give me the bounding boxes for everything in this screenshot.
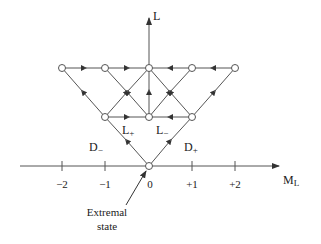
node: [102, 65, 109, 72]
lattice-diagram: [0, 0, 321, 244]
d-minus-label: D−: [89, 141, 103, 156]
tick-label: −2: [56, 178, 68, 190]
extremal-pointer: [126, 171, 146, 205]
node: [59, 65, 66, 72]
node: [146, 114, 153, 121]
node: [232, 65, 239, 72]
l-plus-label: L+: [122, 124, 134, 139]
node: [146, 65, 153, 72]
extremal-state-caption: Extremal state: [87, 205, 127, 233]
tick-label: +2: [229, 178, 241, 190]
ml-axis-label: ML: [283, 174, 299, 189]
tick-label: −1: [99, 178, 111, 190]
node: [189, 65, 196, 72]
tick-label: +1: [186, 178, 198, 190]
node: [189, 114, 196, 121]
l-minus-label: L−: [156, 124, 168, 139]
d-plus-label: D+: [184, 141, 198, 156]
extremal-node: [146, 163, 153, 170]
tick-label: 0: [147, 178, 153, 190]
node: [102, 114, 109, 121]
l-axis-label: L: [153, 10, 160, 22]
